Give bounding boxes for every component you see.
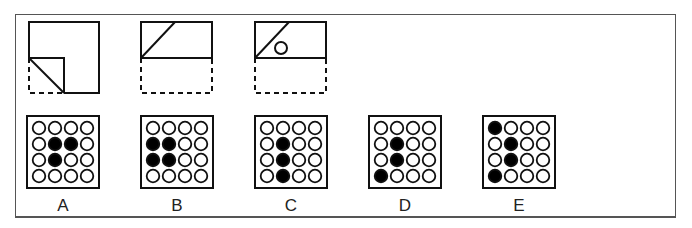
filled-hole-icon bbox=[147, 154, 160, 167]
empty-hole-icon bbox=[521, 154, 534, 167]
empty-hole-icon bbox=[179, 154, 192, 167]
empty-hole-icon bbox=[489, 138, 502, 151]
empty-hole-icon bbox=[261, 122, 274, 135]
option-c-grid[interactable] bbox=[255, 116, 327, 188]
empty-hole-icon bbox=[33, 170, 46, 183]
filled-hole-icon bbox=[49, 154, 62, 167]
empty-hole-icon bbox=[33, 154, 46, 167]
empty-hole-icon bbox=[147, 170, 160, 183]
empty-hole-icon bbox=[293, 122, 306, 135]
empty-hole-icon bbox=[293, 154, 306, 167]
step-3-figure bbox=[255, 22, 326, 93]
option-d-grid[interactable] bbox=[369, 116, 441, 188]
step-2-figure bbox=[141, 22, 212, 93]
filled-hole-icon bbox=[163, 138, 176, 151]
empty-hole-icon bbox=[407, 138, 420, 151]
filled-hole-icon bbox=[375, 170, 388, 183]
punch-hole-icon bbox=[275, 42, 287, 54]
empty-hole-icon bbox=[195, 122, 208, 135]
empty-hole-icon bbox=[309, 122, 322, 135]
empty-hole-icon bbox=[309, 138, 322, 151]
empty-hole-icon bbox=[407, 170, 420, 183]
empty-hole-icon bbox=[261, 154, 274, 167]
empty-hole-icon bbox=[423, 122, 436, 135]
filled-hole-icon bbox=[489, 170, 502, 183]
empty-hole-icon bbox=[81, 138, 94, 151]
empty-hole-icon bbox=[391, 170, 404, 183]
empty-hole-icon bbox=[195, 138, 208, 151]
option-label-e[interactable]: E bbox=[479, 196, 559, 216]
filled-hole-icon bbox=[147, 138, 160, 151]
filled-hole-icon bbox=[65, 138, 78, 151]
fold-steps bbox=[0, 0, 692, 228]
empty-hole-icon bbox=[277, 122, 290, 135]
answer-options bbox=[27, 116, 555, 188]
empty-hole-icon bbox=[49, 122, 62, 135]
filled-hole-icon bbox=[489, 122, 502, 135]
empty-hole-icon bbox=[375, 138, 388, 151]
empty-hole-icon bbox=[293, 138, 306, 151]
empty-hole-icon bbox=[537, 122, 550, 135]
option-b-grid[interactable] bbox=[141, 116, 213, 188]
empty-hole-icon bbox=[375, 122, 388, 135]
filled-hole-icon bbox=[391, 154, 404, 167]
filled-hole-icon bbox=[163, 154, 176, 167]
empty-hole-icon bbox=[505, 170, 518, 183]
empty-hole-icon bbox=[505, 122, 518, 135]
filled-hole-icon bbox=[49, 138, 62, 151]
empty-hole-icon bbox=[179, 170, 192, 183]
empty-hole-icon bbox=[81, 170, 94, 183]
empty-hole-icon bbox=[33, 138, 46, 151]
empty-hole-icon bbox=[407, 154, 420, 167]
empty-hole-icon bbox=[293, 170, 306, 183]
option-label-d[interactable]: D bbox=[365, 196, 445, 216]
empty-hole-icon bbox=[147, 122, 160, 135]
empty-hole-icon bbox=[423, 170, 436, 183]
empty-hole-icon bbox=[195, 170, 208, 183]
empty-hole-icon bbox=[33, 122, 46, 135]
empty-hole-icon bbox=[261, 138, 274, 151]
empty-hole-icon bbox=[163, 122, 176, 135]
filled-hole-icon bbox=[277, 170, 290, 183]
filled-hole-icon bbox=[277, 154, 290, 167]
empty-hole-icon bbox=[489, 154, 502, 167]
empty-hole-icon bbox=[65, 170, 78, 183]
empty-hole-icon bbox=[423, 138, 436, 151]
empty-hole-icon bbox=[391, 122, 404, 135]
empty-hole-icon bbox=[521, 170, 534, 183]
empty-hole-icon bbox=[65, 154, 78, 167]
empty-hole-icon bbox=[179, 122, 192, 135]
empty-hole-icon bbox=[423, 154, 436, 167]
empty-hole-icon bbox=[163, 170, 176, 183]
step-1-figure bbox=[29, 22, 99, 93]
empty-hole-icon bbox=[309, 170, 322, 183]
option-a-grid[interactable] bbox=[27, 116, 99, 188]
filled-hole-icon bbox=[277, 138, 290, 151]
filled-hole-icon bbox=[391, 138, 404, 151]
filled-hole-icon bbox=[505, 154, 518, 167]
empty-hole-icon bbox=[521, 138, 534, 151]
empty-hole-icon bbox=[65, 122, 78, 135]
empty-hole-icon bbox=[407, 122, 420, 135]
option-label-b[interactable]: B bbox=[137, 196, 217, 216]
empty-hole-icon bbox=[81, 154, 94, 167]
empty-hole-icon bbox=[261, 170, 274, 183]
empty-hole-icon bbox=[537, 138, 550, 151]
empty-hole-icon bbox=[375, 154, 388, 167]
empty-hole-icon bbox=[49, 170, 62, 183]
empty-hole-icon bbox=[179, 138, 192, 151]
empty-hole-icon bbox=[309, 154, 322, 167]
empty-hole-icon bbox=[537, 170, 550, 183]
empty-hole-icon bbox=[81, 122, 94, 135]
option-label-a[interactable]: A bbox=[23, 196, 103, 216]
empty-hole-icon bbox=[195, 154, 208, 167]
option-e-grid[interactable] bbox=[483, 116, 555, 188]
empty-hole-icon bbox=[537, 154, 550, 167]
option-label-c[interactable]: C bbox=[251, 196, 331, 216]
empty-hole-icon bbox=[521, 122, 534, 135]
filled-hole-icon bbox=[505, 138, 518, 151]
